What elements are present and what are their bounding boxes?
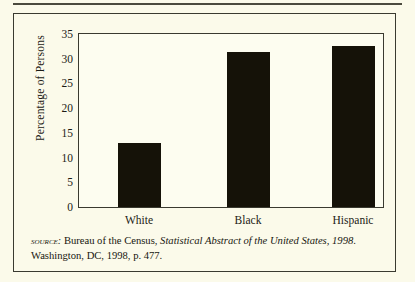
y-tick-label-30: 30 bbox=[62, 53, 74, 65]
y-tick-label-10: 10 bbox=[62, 152, 74, 164]
x-label-hispanic: Hispanic bbox=[333, 214, 374, 226]
bar-hispanic bbox=[332, 46, 375, 207]
y-tick-label-15: 15 bbox=[62, 127, 74, 139]
chart-area: Percentage of Persons 35 30 25 20 15 10 … bbox=[14, 14, 397, 223]
figure-box: Percentage of Persons 35 30 25 20 15 10 … bbox=[13, 13, 396, 272]
plot-inner: 35 30 25 20 15 10 5 0 White Black Hispan… bbox=[79, 34, 383, 207]
y-tick-label-5: 5 bbox=[67, 176, 73, 188]
x-label-white: White bbox=[125, 214, 153, 226]
y-tick-label-25: 25 bbox=[62, 77, 74, 89]
source-note: source: Bureau of the Census, Statistica… bbox=[31, 233, 379, 264]
plot-frame: 35 30 25 20 15 10 5 0 White Black Hispan… bbox=[78, 33, 384, 208]
bar-white bbox=[118, 143, 161, 207]
y-tick-label-20: 20 bbox=[62, 102, 74, 114]
y-tick-label-0: 0 bbox=[67, 201, 73, 213]
y-axis-title: Percentage of Persons bbox=[34, 18, 46, 158]
source-label: source: bbox=[31, 235, 61, 246]
source-text-before: Bureau of the Census, bbox=[61, 235, 160, 246]
y-tick-label-35: 35 bbox=[62, 28, 74, 40]
source-publication-title: Statistical Abstract of the United State… bbox=[160, 235, 353, 246]
x-label-black: Black bbox=[235, 214, 262, 226]
top-rule bbox=[13, 3, 402, 5]
bar-black bbox=[227, 52, 270, 207]
figure: Percentage of Persons 35 30 25 20 15 10 … bbox=[0, 0, 415, 282]
